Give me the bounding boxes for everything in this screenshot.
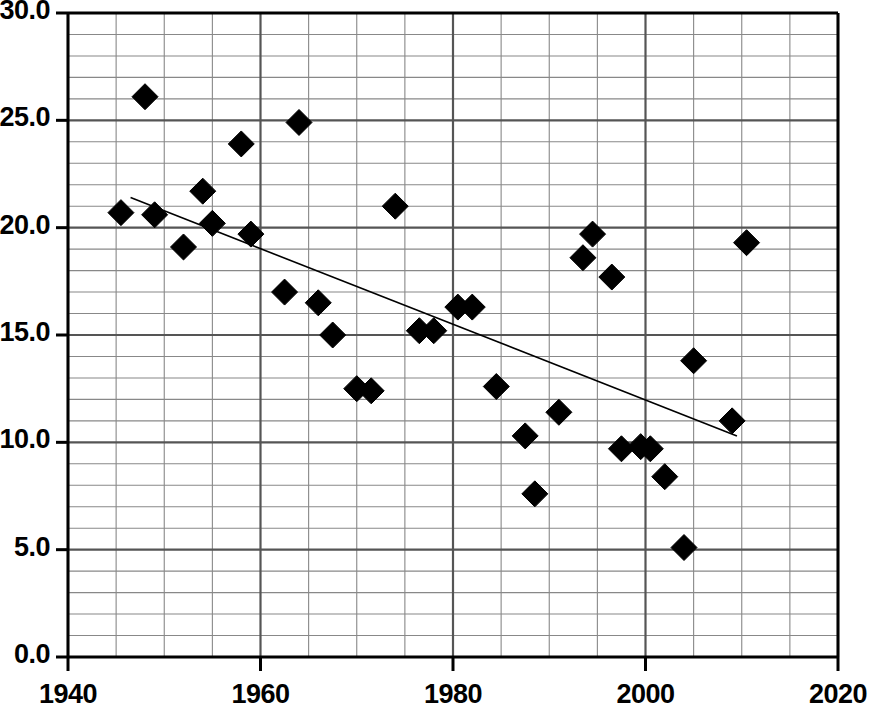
data-point-marker [734, 230, 760, 256]
data-point-marker [512, 423, 538, 449]
y-axis-tick-label: 15.0 [0, 317, 50, 348]
x-axis-tick-label: 2000 [576, 679, 716, 710]
y-axis-tick-label: 0.0 [14, 639, 50, 670]
data-point-marker [580, 221, 606, 247]
x-axis-tick-label: 2020 [768, 679, 872, 710]
y-axis-tick-label: 20.0 [0, 210, 50, 241]
y-axis-tick-label: 10.0 [0, 424, 50, 455]
y-axis-tick-label: 5.0 [14, 532, 50, 563]
y-axis-tick-label: 25.0 [0, 102, 50, 133]
data-point-marker [320, 322, 346, 348]
data-point-marker [108, 200, 134, 226]
data-points [108, 84, 760, 561]
data-point-marker [132, 84, 158, 110]
data-point-marker [171, 234, 197, 260]
y-axis-tick-label: 30.0 [0, 0, 50, 26]
x-axis-tick-label: 1940 [0, 679, 138, 710]
data-point-marker [599, 264, 625, 290]
data-point-marker [228, 131, 254, 157]
data-point-marker [421, 318, 447, 344]
data-point-marker [681, 348, 707, 374]
axis-ticks [56, 13, 838, 671]
x-axis-tick-label: 1960 [191, 679, 331, 710]
major-gridlines [68, 13, 838, 657]
data-point-marker [459, 294, 485, 320]
data-point-marker [272, 279, 298, 305]
data-point-marker [199, 210, 225, 236]
x-axis-tick-label: 1980 [383, 679, 523, 710]
